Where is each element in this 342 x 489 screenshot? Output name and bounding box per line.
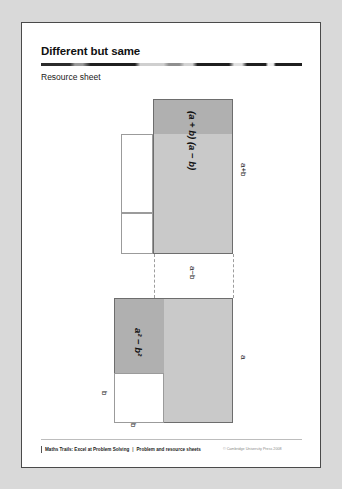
footer-divider-rule xyxy=(41,439,302,440)
footer-tick-icon xyxy=(41,446,42,453)
page-title: Different but same xyxy=(41,45,140,57)
dashed-connector-left xyxy=(154,254,155,298)
lower-side-label-right: a xyxy=(239,355,248,359)
upper-white-rect-top xyxy=(121,134,153,213)
upper-grey-rect-dark-band xyxy=(154,100,232,134)
footer-section: Problem and resource sheets xyxy=(137,447,201,452)
resource-sheet-page: Different but same Resource sheet (a + b… xyxy=(21,22,321,468)
footer-copyright: © Cambridge University Press 2008 xyxy=(223,447,282,451)
footer-book-title: Maths Trails: Excel at Problem Solving xyxy=(45,447,129,452)
lower-area-label: a² − b² xyxy=(133,328,144,356)
upper-height-label: a+b xyxy=(239,163,248,177)
upper-grey-rect xyxy=(153,99,233,254)
lower-white-cutout-square xyxy=(114,373,164,423)
lower-grey-square xyxy=(114,298,233,423)
upper-area-label: (a + b) (a − b) xyxy=(187,111,198,170)
lower-grey-square-dark-band xyxy=(115,299,164,395)
lower-side-label-bottom: b xyxy=(129,423,138,427)
upper-width-label: a−b xyxy=(188,266,197,280)
dashed-connector-right xyxy=(233,254,234,298)
title-divider-rule xyxy=(41,63,302,66)
page-footer: Maths Trails: Excel at Problem Solving |… xyxy=(41,443,303,455)
geometry-diagram: (a + b) (a − b) a+b a−b a² − b² a b b xyxy=(22,23,322,469)
page-subtitle: Resource sheet xyxy=(41,72,101,82)
lower-side-label-left: b xyxy=(100,391,109,395)
upper-white-rect-bottom xyxy=(121,213,153,254)
footer-separator: | xyxy=(132,447,133,452)
